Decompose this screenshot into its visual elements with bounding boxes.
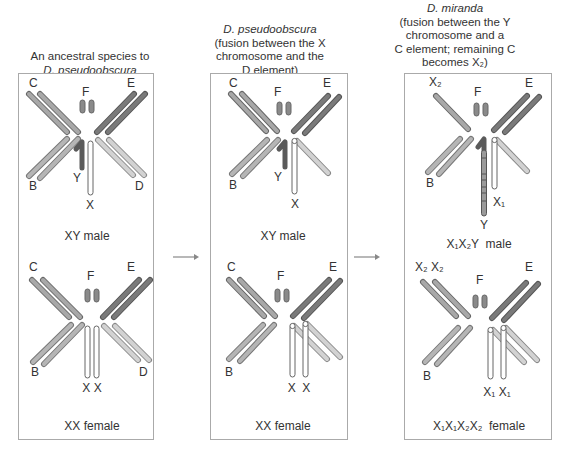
caption-pseudoobscura: D. pseudoobscura (fusion between the X c… bbox=[195, 23, 345, 77]
chromosome-label-f: F bbox=[82, 85, 89, 99]
chromosome-label-e: E bbox=[127, 76, 135, 90]
chromosome-label-b: B bbox=[225, 365, 233, 379]
caption-line: becomes X₂) bbox=[380, 56, 530, 70]
chromosome-label-e: E bbox=[127, 260, 135, 274]
male-label: XY male bbox=[260, 229, 305, 243]
karyotype-diagram: C E F bbox=[19, 74, 155, 441]
chromosome-label-x: X bbox=[291, 197, 299, 211]
chromosome-label-x2-pair: X₂ X₂ bbox=[415, 260, 444, 274]
chromosome-label-y: Y bbox=[73, 171, 81, 185]
male-label: X₁X₂Y male bbox=[446, 237, 512, 251]
chromosome-label-x: X bbox=[86, 198, 94, 212]
chromosome-label-e: E bbox=[525, 260, 533, 274]
caption-species: D. pseudoobscura bbox=[195, 23, 345, 37]
chromosome-label-b: B bbox=[423, 369, 431, 383]
chromosome-label-e: E bbox=[525, 76, 533, 90]
female-karyotype: C E F B X X bbox=[225, 260, 340, 395]
female-label: XX female bbox=[255, 419, 311, 433]
chromosome-label-b: B bbox=[426, 176, 434, 190]
caption-line: chromosome and a bbox=[380, 29, 530, 43]
male-karyotype: X₂ E F bbox=[426, 75, 539, 232]
chromosome-label-x1: X₁ bbox=[493, 195, 505, 209]
arrow-right-icon bbox=[172, 252, 200, 262]
caption-line: (fusion between the Y bbox=[380, 16, 530, 30]
chromosome-label-c: C bbox=[29, 76, 38, 90]
chromosome-label-b: B bbox=[31, 365, 39, 379]
chromosome-label-x-pair: X X bbox=[288, 381, 311, 395]
female-karyotype: C E F B D X X bbox=[29, 260, 150, 395]
chromosome-label-c: C bbox=[227, 260, 236, 274]
caption-line: C element; remaining C bbox=[380, 43, 530, 57]
chromosome-label-f: F bbox=[476, 273, 483, 287]
chromosome-label-f: F bbox=[274, 85, 281, 99]
caption-species: D. miranda bbox=[380, 2, 530, 16]
panel-pseudoobscura: C E F B Y X XY bbox=[210, 73, 348, 440]
chromosome-label-c: C bbox=[229, 76, 238, 90]
arrow-right-icon bbox=[353, 252, 381, 262]
karyotype-diagram: C E F B Y X XY bbox=[211, 74, 349, 441]
panel-ancestral: C E F bbox=[18, 73, 154, 440]
chromosome-label-x1-pair: X₁ X₁ bbox=[483, 385, 510, 399]
chromosome-label-f: F bbox=[474, 85, 481, 99]
male-karyotype: C E F B Y X bbox=[229, 76, 339, 211]
chromosome-label-f: F bbox=[87, 269, 94, 283]
chromosome-label-x-pair: X X bbox=[82, 381, 101, 395]
chromosome-label-f: F bbox=[277, 269, 284, 283]
male-label: XY male bbox=[64, 229, 109, 243]
female-karyotype: X₂ X₂ E F B X₁ X₁ bbox=[415, 260, 538, 399]
caption-line: An ancestral species to bbox=[15, 50, 165, 64]
male-karyotype: C E F bbox=[29, 76, 145, 212]
caption-miranda: D. miranda (fusion between the Y chromos… bbox=[380, 2, 530, 70]
chromosome-label-e: E bbox=[329, 260, 337, 274]
chromosome-label-e: E bbox=[323, 76, 331, 90]
chromosome-label-b: B bbox=[29, 179, 37, 193]
chromosome-label-d: D bbox=[135, 179, 144, 193]
chromosome-label-y: Y bbox=[480, 218, 488, 232]
panel-miranda: X₂ E F bbox=[404, 73, 552, 440]
chromosome-label-b: B bbox=[229, 178, 237, 192]
chromosome-label-d: D bbox=[139, 365, 148, 379]
female-label: X₁X₁X₂X₂ female bbox=[433, 419, 525, 433]
chromosome-label-x2: X₂ bbox=[429, 75, 442, 89]
chromosome-label-c: C bbox=[29, 260, 38, 274]
female-label: XX female bbox=[64, 419, 120, 433]
chromosome-label-y: Y bbox=[274, 170, 282, 184]
caption-line: (fusion between the X bbox=[195, 37, 345, 51]
caption-line: chromosome and the bbox=[195, 50, 345, 64]
karyotype-diagram: X₂ E F bbox=[405, 74, 553, 441]
